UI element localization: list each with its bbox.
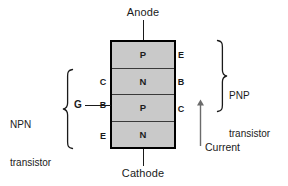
layer-letter-p2: P: [140, 102, 146, 113]
npn-annotation: NPN transistor: [10, 94, 51, 186]
layer-letter-n2: N: [140, 129, 147, 140]
anode-label: Anode: [127, 7, 159, 18]
thyristor-diagram-canvas: Anode P N P N Cathode E B C C B E G NPN …: [0, 0, 288, 186]
cathode-lead: [143, 149, 145, 166]
four-layer-stack: P N P N: [110, 40, 176, 149]
layer-n-cathode: N: [112, 121, 174, 148]
layer-p-lower: P: [112, 94, 174, 121]
layer-n-upper: N: [112, 68, 174, 95]
npn-brace: [62, 68, 74, 150]
layer-letter-n1: N: [140, 76, 147, 87]
junction-letter-right-collector: C: [178, 105, 185, 114]
junction-letter-right-base: B: [178, 78, 185, 87]
gate-lead: [85, 105, 111, 107]
cathode-label: Cathode: [122, 168, 164, 179]
gate-label: G: [74, 100, 82, 110]
junction-letter-left-collector: C: [100, 78, 107, 87]
pnp-annotation-line1: PNP: [229, 90, 270, 103]
current-label: Current: [205, 142, 240, 153]
layer-p-anode: P: [112, 42, 174, 68]
anode-lead: [143, 20, 145, 41]
npn-annotation-line2: transistor: [10, 157, 51, 170]
junction-letter-left-emitter: E: [100, 132, 106, 141]
npn-annotation-line1: NPN: [10, 119, 51, 132]
pnp-brace: [216, 39, 228, 113]
pnp-annotation-line2: transistor: [229, 128, 270, 141]
junction-letter-right-emitter: E: [178, 51, 184, 60]
layer-letter-p1: P: [140, 49, 146, 60]
current-arrow-icon: [196, 99, 205, 146]
